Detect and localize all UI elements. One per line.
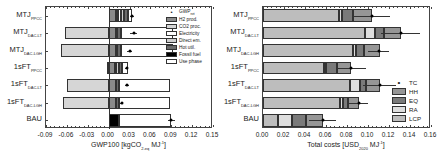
- x-minor-tick-top: [67, 7, 68, 8]
- legend-label: Direct em.: [179, 38, 201, 43]
- legend-swatch: [166, 31, 177, 36]
- total-marker: [377, 49, 380, 52]
- x-minor-tick-top: [130, 7, 131, 8]
- x-minor-tick: [385, 126, 386, 127]
- bar-segment-eq: [292, 114, 306, 127]
- x-minor-tick-top: [418, 7, 419, 8]
- y-category-label: 1sFTDAC-LGH: [224, 97, 259, 108]
- x-minor-tick: [188, 126, 189, 127]
- legend-swatch: [166, 52, 177, 57]
- x-minor-tick-top: [200, 7, 201, 8]
- x-minor-tick: [104, 126, 105, 127]
- x-minor-tick: [389, 126, 390, 127]
- y-tick-mark: [46, 51, 48, 52]
- x-tick-label: 0.06: [143, 131, 156, 138]
- legend-item: CO2 proc.: [166, 23, 202, 30]
- legend-label: Hot util.: [179, 45, 195, 50]
- bar-segment-h2-prod-: [109, 44, 116, 57]
- x-minor-tick: [334, 126, 335, 127]
- y-category-label: MTJDAC-LT: [13, 27, 42, 38]
- x-minor-tick-top: [427, 7, 428, 8]
- x-minor-tick: [431, 126, 432, 127]
- x-minor-tick: [54, 126, 55, 127]
- total-marker: [350, 67, 353, 70]
- x-minor-tick-top: [125, 7, 126, 8]
- y-tick-mark: [46, 85, 48, 86]
- x-minor-tick-top: [376, 7, 377, 8]
- x-minor-tick-top: [184, 7, 185, 8]
- legend-label: Use phase: [179, 59, 202, 64]
- bar-segment-eq: [342, 9, 354, 22]
- x-minor-tick: [79, 126, 80, 127]
- legend-label: Electricity: [179, 31, 200, 36]
- x-minor-tick-top: [423, 7, 424, 8]
- x-minor-tick-top: [347, 7, 348, 8]
- x-minor-tick-top: [267, 7, 268, 8]
- legend-dot-icon: •: [166, 10, 177, 15]
- y-tick-mark: [46, 33, 48, 34]
- x-minor-tick: [355, 126, 356, 127]
- x-minor-tick-top: [171, 7, 172, 8]
- x-tick-label: -0.03: [79, 131, 94, 138]
- x-minor-tick-top: [284, 7, 285, 8]
- legend-label: CO2 proc.: [179, 24, 201, 29]
- x-minor-tick: [71, 126, 72, 127]
- legend-label: RA: [409, 106, 418, 113]
- x-minor-tick-top: [84, 7, 85, 8]
- legend-item: EQ: [392, 96, 421, 105]
- x-minor-tick-top: [100, 7, 101, 8]
- bar-segment-co2-proc-: [63, 97, 108, 110]
- x-minor-tick: [180, 126, 181, 127]
- x-minor-tick-top: [113, 7, 114, 8]
- x-tick-label: 0.09: [164, 131, 177, 138]
- legend-swatch: [392, 97, 406, 104]
- bar-segment-use-phase: [121, 27, 172, 40]
- x-tick-label: 0.08: [340, 131, 353, 138]
- x-minor-tick-top: [54, 7, 55, 8]
- x-minor-tick: [351, 126, 352, 127]
- y-tick-mark: [46, 16, 48, 17]
- x-minor-tick: [59, 126, 60, 127]
- y-tick-mark: [46, 103, 48, 104]
- x-minor-tick: [423, 126, 424, 127]
- bar-segment-h2-prod-: [109, 97, 116, 110]
- y-category-label: MTJDAC-LGH: [226, 45, 259, 56]
- legend-dot-icon: •: [392, 78, 406, 87]
- x-minor-tick-top: [288, 7, 289, 8]
- x-minor-tick-top: [180, 7, 181, 8]
- x-tick-label: 0.15: [206, 131, 219, 138]
- legend-label: GWPnet: [179, 9, 195, 16]
- bar-segment-co2-proc-: [65, 27, 108, 40]
- bar-segment-lcp: [263, 27, 365, 40]
- x-minor-tick: [347, 126, 348, 127]
- cost-chart-panel: 0.000.020.040.060.080.100.120.140.16Tota…: [222, 0, 444, 157]
- bar-segment-use-phase: [119, 97, 170, 110]
- legend: •GWPnetH2 prod.CO2 proc.ElectricityDirec…: [166, 9, 202, 65]
- x-minor-tick: [192, 126, 193, 127]
- y-category-label: MTJPPCC: [16, 10, 42, 21]
- bar-segment-lcp: [263, 97, 340, 110]
- x-minor-tick: [410, 126, 411, 127]
- bar-segment-h2-prod-: [109, 79, 116, 92]
- x-minor-tick-top: [402, 7, 403, 8]
- x-minor-tick-top: [301, 7, 302, 8]
- x-tick-label: 0.03: [122, 131, 135, 138]
- bar-segment-lcp: [263, 9, 339, 22]
- x-minor-tick-top: [96, 7, 97, 8]
- x-minor-tick-top: [163, 7, 164, 8]
- total-marker: [132, 32, 135, 35]
- legend-item: H2 prod.: [166, 16, 202, 23]
- x-minor-tick: [406, 126, 407, 127]
- x-minor-tick: [393, 126, 394, 127]
- x-minor-tick-top: [175, 7, 176, 8]
- y-category-label: MTJPPCC: [233, 10, 259, 21]
- legend-item: Hot util.: [166, 44, 202, 51]
- legend-swatch: [392, 115, 406, 122]
- x-minor-tick: [414, 126, 415, 127]
- legend-swatch: [392, 88, 406, 95]
- x-minor-tick: [75, 126, 76, 127]
- x-minor-tick: [205, 126, 206, 127]
- x-minor-tick: [92, 126, 93, 127]
- x-minor-tick-top: [431, 7, 432, 8]
- total-marker: [125, 84, 128, 87]
